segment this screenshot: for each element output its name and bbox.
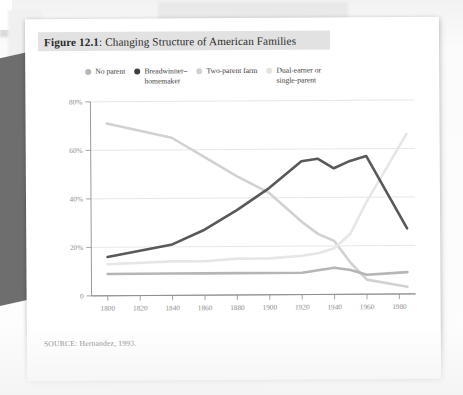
- legend-label: Two-parent farm: [206, 66, 257, 77]
- x-axis-tick-label: 1960: [360, 302, 375, 311]
- photo-bottom-fade: [0, 325, 463, 395]
- y-axis-tick-label: 80%: [69, 98, 82, 107]
- legend-swatch-icon: [196, 68, 202, 74]
- chart-legend: No parent Breadwinner– homemaker Two-par…: [85, 65, 415, 88]
- y-axis-tick-label: 60%: [69, 146, 82, 155]
- legend-swatch-icon: [85, 68, 91, 74]
- figure-screenshot: Figure 12.1: Changing Structure of Ameri…: [0, 0, 463, 395]
- figure-title-separator: :: [99, 35, 102, 47]
- legend-swatch-icon: [134, 68, 140, 74]
- legend-item-breadwinner-homemaker[interactable]: Breadwinner– homemaker: [134, 66, 187, 87]
- legend-item-no-parent[interactable]: No parent: [85, 67, 125, 77]
- x-axis-tick-label: 1880: [230, 303, 245, 312]
- y-axis-tick-label: 0: [80, 292, 84, 301]
- figure-title-text: Changing Structure of American Families: [105, 34, 296, 47]
- legend-label: Breadwinner– homemaker: [144, 66, 187, 87]
- gridline: [91, 148, 415, 150]
- legend-swatch-icon: [266, 67, 272, 73]
- chart-plot-area: 020%40%60%80%180018201840186018801900192…: [38, 92, 427, 332]
- figure-number: Figure 12.1: [44, 35, 99, 47]
- gridline: [91, 245, 415, 247]
- y-axis-tick-label: 20%: [70, 243, 83, 252]
- x-axis-tick-label: 1840: [165, 303, 180, 312]
- legend-item-dual-earner-single-parent[interactable]: Dual-earner or single-parent: [266, 65, 321, 86]
- legend-item-two-parent-farm[interactable]: Two-parent farm: [196, 66, 257, 77]
- x-axis-tick-label: 1860: [198, 303, 213, 312]
- x-axis-tick-label: 1900: [263, 303, 278, 312]
- x-axis-tick-label: 1920: [295, 303, 310, 312]
- series-line: [107, 134, 407, 264]
- y-axis: [90, 102, 91, 296]
- figure-title-bar: Figure 12.1: Changing Structure of Ameri…: [38, 30, 330, 51]
- gridline: [90, 100, 414, 102]
- y-axis-tick-label: 40%: [70, 195, 83, 204]
- legend-label: No parent: [95, 67, 125, 77]
- x-axis-tick-label: 1820: [133, 304, 148, 313]
- line-chart: 020%40%60%80%180018201840186018801900192…: [38, 92, 427, 332]
- page-title: Figure 12.1: Changing Structure of Ameri…: [44, 34, 296, 48]
- series-line: [107, 156, 407, 257]
- x-axis-tick-label: 1980: [392, 302, 407, 311]
- x-axis-tick-label: 1940: [327, 302, 342, 311]
- x-axis-tick-label: 1800: [101, 304, 116, 313]
- legend-label: Dual-earner or single-parent: [276, 65, 321, 86]
